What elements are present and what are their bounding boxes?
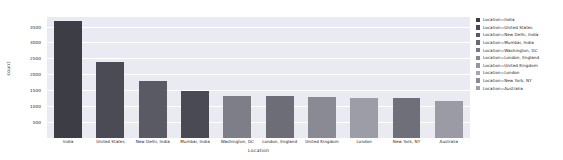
x-axis-tick-label: New Delhi, India [132, 139, 174, 148]
legend-swatch-icon [476, 71, 480, 75]
bar-slot [385, 17, 427, 138]
y-axis-tick-label: 3000 [30, 40, 41, 45]
legend-item[interactable]: Location=Washington, DC [476, 46, 562, 54]
bar[interactable] [181, 91, 209, 138]
legend-swatch-icon [476, 78, 480, 82]
legend-item[interactable]: Location=London [476, 69, 562, 77]
bar-slot [301, 17, 343, 138]
bar[interactable] [393, 98, 421, 138]
plot-area [47, 17, 470, 138]
x-axis-tick-label: New York, NY [385, 139, 427, 148]
legend-item[interactable]: Location=New York, NY [476, 77, 562, 85]
legend-item-label: Location=United Kingdom [483, 63, 538, 68]
legend-item[interactable]: Location=United States [476, 24, 562, 32]
legend-swatch-icon [476, 40, 480, 44]
x-axis-tick-label: London, England [258, 139, 300, 148]
legend-swatch-icon [476, 86, 480, 90]
bar[interactable] [308, 97, 336, 138]
bar[interactable] [54, 21, 82, 138]
legend-swatch-icon [476, 18, 480, 22]
y-axis-tick-label: 500 [33, 120, 41, 125]
bar[interactable] [266, 96, 294, 138]
legend-swatch-icon [476, 56, 480, 60]
legend-item[interactable]: Location=London, England [476, 54, 562, 62]
x-axis-tick-label: Australia [428, 139, 470, 148]
x-axis-tick-label: Mumbai, India [174, 139, 216, 148]
legend-item-label: Location=United States [483, 25, 533, 30]
bar-series [47, 17, 470, 138]
legend-item-label: Location=India [483, 17, 515, 22]
y-axis-tick-label: 3500 [30, 24, 41, 29]
x-axis-tick-label: India [47, 139, 89, 148]
bar-slot [343, 17, 385, 138]
bar-slot [216, 17, 258, 138]
bar[interactable] [96, 62, 124, 138]
bar-slot [174, 17, 216, 138]
x-axis-tick-label: United Kingdom [301, 139, 343, 148]
x-axis-tick-label: United States [89, 139, 131, 148]
legend-swatch-icon [476, 25, 480, 29]
legend: Location=IndiaLocation=United StatesLoca… [476, 16, 562, 92]
legend-item[interactable]: Location=New Delhi, India [476, 31, 562, 39]
bar-slot [258, 17, 300, 138]
bar[interactable] [350, 98, 378, 138]
legend-swatch-icon [476, 63, 480, 67]
bar-slot [89, 17, 131, 138]
bar-chart-figure: count 500100015002000250030003500 IndiaU… [0, 0, 563, 160]
x-axis-tick-label: Washington, DC [216, 139, 258, 148]
legend-item[interactable]: Location=India [476, 16, 562, 24]
bar[interactable] [223, 96, 251, 138]
bar[interactable] [139, 81, 167, 138]
x-axis-tick-label: London [343, 139, 385, 148]
legend-item-label: Location=New York, NY [483, 78, 532, 83]
y-axis-tick-label: 1500 [30, 88, 41, 93]
x-axis-title: Location [47, 148, 470, 153]
y-axis-tick-label: 2000 [30, 72, 41, 77]
legend-item[interactable]: Location=United Kingdom [476, 62, 562, 70]
y-axis-tick-label: 2500 [30, 56, 41, 61]
legend-item-label: Location=London, England [483, 55, 539, 60]
legend-item-label: Location=Mumbai, India [483, 40, 534, 45]
legend-item[interactable]: Location=Mumbai, India [476, 39, 562, 47]
legend-swatch-icon [476, 48, 480, 52]
legend-item[interactable]: Location=Australia [476, 84, 562, 92]
y-axis-tick-label: 1000 [30, 104, 41, 109]
legend-item-label: Location=New Delhi, India [483, 32, 538, 37]
y-axis-tick-labels: 500100015002000250030003500 [0, 17, 44, 138]
legend-swatch-icon [476, 33, 480, 37]
bar[interactable] [435, 101, 463, 138]
legend-item-label: Location=Washington, DC [483, 48, 538, 53]
legend-item-label: Location=Australia [483, 86, 523, 91]
bar-slot [47, 17, 89, 138]
bar-slot [428, 17, 470, 138]
x-axis-tick-labels: IndiaUnited StatesNew Delhi, IndiaMumbai… [47, 139, 470, 148]
bar-slot [132, 17, 174, 138]
legend-item-label: Location=London [483, 70, 520, 75]
